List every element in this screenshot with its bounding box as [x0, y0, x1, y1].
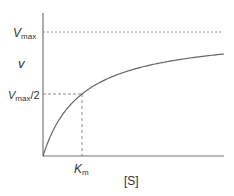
- km-label: Km: [74, 162, 89, 177]
- michaelis-menten-chart: Vmax v Vmax/2 Km [S]: [0, 0, 234, 196]
- half-vmax-label: Vmax/2: [8, 89, 40, 103]
- vmax-label: Vmax: [13, 26, 36, 41]
- x-axis-label: [S]: [124, 174, 139, 188]
- v-axis-label: v: [18, 56, 26, 71]
- mm-curve: [43, 54, 224, 156]
